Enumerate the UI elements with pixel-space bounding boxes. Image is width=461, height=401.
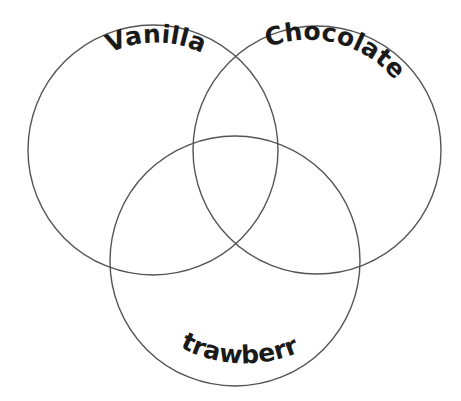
strawberry-label: Strawberry xyxy=(0,0,302,370)
venn-diagram: Vanilla Chocolate Strawberry xyxy=(0,0,461,401)
vanilla-label: Vanilla xyxy=(101,19,210,58)
chocolate-label: Chocolate xyxy=(261,16,411,84)
vanilla-circle xyxy=(28,25,278,275)
